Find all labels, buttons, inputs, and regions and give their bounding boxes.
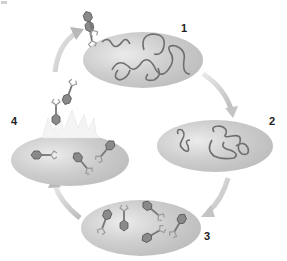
lytic-cycle-diagram — [0, 0, 287, 261]
arrow-2-to-3 — [201, 178, 228, 217]
burst-opening — [42, 110, 100, 138]
stage-label-4: 4 — [11, 115, 17, 127]
stage-3-cell — [81, 199, 201, 256]
released-phage-icon — [61, 79, 77, 106]
infecting-phage-icon — [82, 10, 98, 37]
stage-label-1: 1 — [181, 22, 187, 34]
stage-label-2: 2 — [269, 115, 275, 127]
arrow-4-to-1 — [55, 27, 84, 72]
stage-2-cell — [157, 120, 273, 172]
stage-4-cell — [11, 99, 129, 186]
phage-icon — [52, 99, 60, 125]
arrow-1-to-2 — [203, 74, 238, 118]
stage-label-3: 3 — [204, 230, 210, 242]
